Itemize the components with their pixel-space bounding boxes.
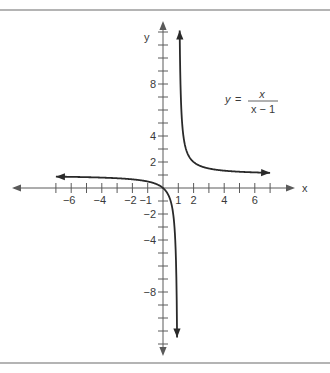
x-tick-label: 2 [191,194,197,206]
x-axis-arrow-right [286,184,295,191]
x-tick-label: −1 [139,194,152,206]
y-tick-label: −2 [143,208,156,220]
curve-arrow-start [176,31,183,40]
equation-denominator: x − 1 [251,103,275,115]
curve-arrow-end [261,169,270,176]
y-tick-label: 4 [150,130,156,142]
y-axis-arrow-up [159,21,166,30]
equation-equals: = [235,93,241,105]
x-tick-label: 4 [221,194,227,206]
y-axis-arrow-down [159,347,166,356]
x-tick-label: −6 [63,194,76,206]
x-tick-label: −2 [124,194,137,206]
x-tick-label: 6 [252,194,258,206]
y-tick-label: −8 [143,286,156,298]
y-tick-label: 8 [150,78,156,90]
equation-numerator: x [258,88,265,100]
y-tick-label: −4 [143,234,156,246]
x-axis-label: x [302,182,308,194]
curve-arrow-start [56,173,65,180]
function-graph: xy −6−4−2−11246842−2−4−8 y = x x − 1 [0,0,330,373]
y-axis-label: y [144,31,150,43]
x-tick-label: −4 [94,194,107,206]
x-axis-arrow-left [12,184,21,191]
equation-lhs: y [224,93,232,105]
curve-arrow-end [173,328,180,337]
equation-label: y = x x − 1 [224,88,278,115]
y-tick-label: 2 [150,156,156,168]
x-tick-label: 1 [175,194,181,206]
